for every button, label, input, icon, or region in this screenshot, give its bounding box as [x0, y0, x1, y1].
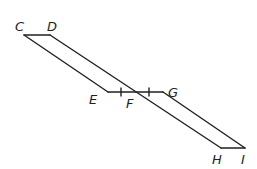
- label-f: F: [126, 96, 134, 111]
- label-g: G: [168, 85, 178, 100]
- segment-gi: [163, 92, 245, 148]
- point-labels: C D E F G H I: [15, 19, 245, 167]
- label-i: I: [241, 152, 245, 167]
- label-d: D: [47, 19, 57, 34]
- label-h: H: [212, 152, 222, 167]
- label-c: C: [15, 19, 25, 34]
- label-e: E: [89, 92, 98, 107]
- segment-dh: [50, 35, 221, 148]
- segment-ce: [24, 35, 108, 92]
- geometry-diagram: C D E F G H I: [0, 0, 257, 169]
- figure-lines: [24, 35, 245, 148]
